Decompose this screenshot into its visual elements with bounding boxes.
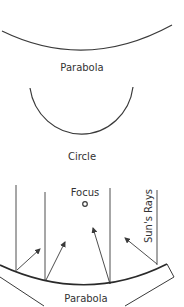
suns-rays-label: Sun's Rays <box>143 189 154 243</box>
parabola-curve <box>2 25 172 50</box>
reflected-ray-arrow-2 <box>46 242 65 280</box>
parabolic-reflector-figure: Focus Sun's Rays Parabola <box>0 185 174 306</box>
diagram-svg: Parabola Circle Focus Sun's Rays <box>0 0 184 307</box>
reflector-parabola-label: Parabola <box>64 293 107 304</box>
focus-point-icon <box>83 202 88 207</box>
reflected-ray-arrow-3 <box>93 228 110 284</box>
circle-figure: Circle <box>30 87 133 162</box>
top-parabola-figure: Parabola <box>2 25 172 73</box>
circle-arc <box>30 87 133 134</box>
parabola-label: Parabola <box>60 62 103 73</box>
parabolic-mirror-end-cap <box>167 264 174 277</box>
parabolic-mirror-back-left <box>0 277 44 306</box>
parabolic-mirror-back-right <box>125 277 174 306</box>
focus-label: Focus <box>71 187 100 198</box>
circle-label: Circle <box>68 151 96 162</box>
parabolic-mirror-surface <box>0 264 167 285</box>
reflected-ray-arrow-1 <box>17 249 40 270</box>
conic-sections-diagram: Parabola Circle Focus Sun's Rays <box>0 0 184 307</box>
